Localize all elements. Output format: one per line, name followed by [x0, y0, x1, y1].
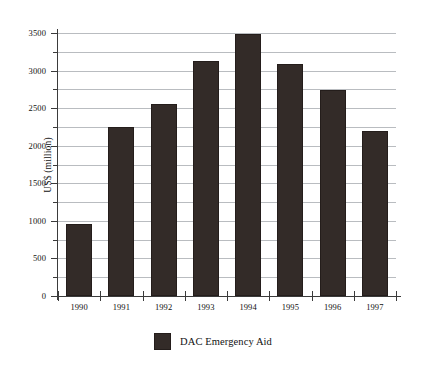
- bar: [277, 64, 303, 296]
- gridline: [58, 52, 396, 53]
- x-tick: [312, 291, 313, 301]
- bar: [362, 131, 388, 296]
- y-minor-tick: [53, 277, 58, 278]
- legend-swatch-icon: [154, 333, 171, 350]
- y-tick: [51, 108, 58, 109]
- x-tick-label: 1990: [59, 303, 99, 312]
- y-tick: [51, 71, 58, 72]
- y-tick-label: 2500: [4, 104, 46, 113]
- x-tick-label: 1996: [313, 303, 353, 312]
- y-tick-label: 1000: [4, 217, 46, 226]
- y-minor-tick: [53, 240, 58, 241]
- bar: [320, 90, 346, 296]
- bar-chart-figure: 0500100015002000250030003500 19901991199…: [0, 0, 426, 379]
- bar: [193, 61, 219, 296]
- y-minor-tick: [53, 202, 58, 203]
- x-tick-label: 1992: [144, 303, 184, 312]
- bar: [151, 104, 177, 296]
- x-tick: [396, 291, 397, 301]
- y-tick-label: 2000: [4, 142, 46, 151]
- x-tick-label: 1994: [228, 303, 268, 312]
- y-minor-tick: [53, 165, 58, 166]
- plot-area: [58, 33, 396, 296]
- x-tick: [143, 291, 144, 301]
- x-tick: [227, 291, 228, 301]
- y-tick-label: 3500: [4, 29, 46, 38]
- x-tick-label: 1995: [270, 303, 310, 312]
- y-tick-label: 500: [4, 254, 46, 263]
- x-tick-label: 1993: [186, 303, 226, 312]
- bar: [235, 34, 261, 296]
- bar: [108, 127, 134, 296]
- y-tick: [51, 221, 58, 222]
- legend-item-dac-emergency-aid: DAC Emergency Aid: [154, 333, 272, 350]
- y-tick-label: 1500: [4, 179, 46, 188]
- gridline: [58, 71, 396, 72]
- x-axis-line: [51, 296, 401, 297]
- y-minor-tick: [53, 89, 58, 90]
- y-tick: [51, 146, 58, 147]
- y-tick-label: 3000: [4, 67, 46, 76]
- x-tick: [58, 291, 59, 301]
- x-tick: [354, 291, 355, 301]
- legend-label: DAC Emergency Aid: [180, 336, 272, 347]
- y-tick: [51, 296, 58, 297]
- x-tick: [185, 291, 186, 301]
- y-tick-label: 0: [4, 292, 46, 301]
- x-tick-label: 1997: [355, 303, 395, 312]
- y-minor-tick: [53, 127, 58, 128]
- y-tick: [51, 183, 58, 184]
- x-tick: [269, 291, 270, 301]
- y-tick: [51, 258, 58, 259]
- chart-legend: DAC Emergency Aid: [0, 333, 426, 350]
- y-tick: [51, 33, 58, 34]
- gridline: [58, 33, 396, 34]
- x-tick: [100, 291, 101, 301]
- x-tick-label: 1991: [101, 303, 141, 312]
- y-minor-tick: [53, 52, 58, 53]
- bar: [66, 224, 92, 296]
